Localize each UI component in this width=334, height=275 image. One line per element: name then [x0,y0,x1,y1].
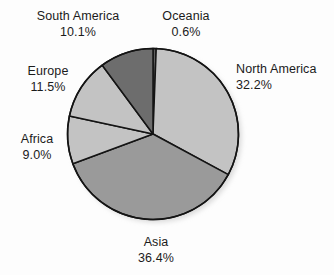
slice-label-asia: Asia 36.4% [116,235,196,266]
slice-label-oceania: Oceania 0.6% [146,9,226,40]
slice-label-europe: Europe 11.5% [10,64,86,95]
pie-slices-group [67,48,238,219]
slice-label-oceania-value: 0.6% [146,25,226,41]
slice-label-south-america: South America 10.1% [18,9,138,40]
pie-chart-figure: South America 10.1% Oceania 0.6% North A… [0,0,334,275]
slice-label-africa: Africa 9.0% [4,132,70,163]
slice-label-south-america-value: 10.1% [18,25,138,41]
slice-label-south-america-name: South America [18,9,138,25]
slice-label-africa-value: 9.0% [4,148,70,164]
slice-label-oceania-name: Oceania [146,9,226,25]
slice-label-asia-value: 36.4% [116,251,196,267]
slice-label-europe-name: Europe [10,64,86,80]
slice-label-europe-value: 11.5% [10,80,86,96]
slice-label-north-america-name: North America [236,62,332,78]
slice-label-africa-name: Africa [4,132,70,148]
slice-label-asia-name: Asia [116,235,196,251]
slice-label-north-america: North America 32.2% [236,62,332,93]
slice-label-north-america-value: 32.2% [236,78,332,94]
